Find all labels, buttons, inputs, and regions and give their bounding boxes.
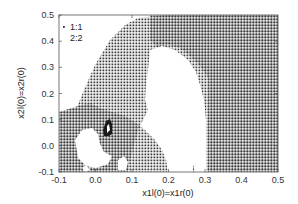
legend: 1:1 2:2 [63,22,83,43]
x-tick-label: 0.0 [89,175,102,185]
legend-label-2-2: 2:2 [70,33,83,43]
x-tick-label: 0.2 [162,175,175,185]
x-tick-label: 0.1 [126,175,139,185]
y-axis-label: x2l(0)=x2r(0) [16,67,26,118]
y-tick-label: 0.2 [41,89,54,99]
x-axis-label: x1l(0)=x1r(0) [142,188,193,198]
y-tick-label: -0.1 [38,167,54,177]
x-tick-label: 0.3 [199,175,212,185]
x-tick-label: 0.4 [235,175,248,185]
chart-svg: -0.1 0.0 0.1 0.2 0.3 0.4 0.5 x1l(0)=x1r(… [0,0,298,204]
x-tick-label: 0.5 [272,175,285,185]
y-tick-label: 0.5 [41,10,54,20]
plot-area [59,15,278,172]
y-tick-label: 0.4 [41,36,54,46]
legend-label-1-1: 1:1 [70,22,83,32]
y-tick-label: 0.1 [41,115,54,125]
y-tick-label: 0.3 [41,62,54,72]
y-tick-label: 0.0 [41,141,54,151]
legend-marker-dot [63,26,65,28]
